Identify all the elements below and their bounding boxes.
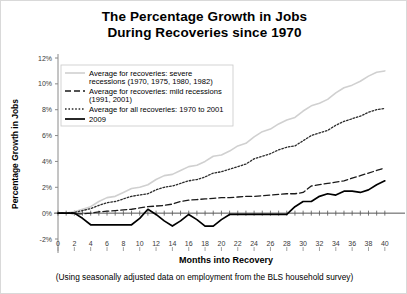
y-axis-tick-label: 12% bbox=[38, 55, 52, 62]
x-axis-tick-label: 10 bbox=[136, 240, 144, 247]
legend-label-1: (1991, 2001) bbox=[89, 95, 133, 104]
y-axis-tick-label: 8% bbox=[42, 106, 52, 113]
x-axis-tick-label: 22 bbox=[234, 240, 242, 247]
x-axis-tick-label: 32 bbox=[316, 240, 324, 247]
x-axis-tick-label: 4 bbox=[89, 240, 93, 247]
x-axis-label: Months into Recovery bbox=[61, 255, 391, 265]
x-axis-tick-label: 24 bbox=[250, 240, 258, 247]
chart-footnote: (Using seasonally adjusted data on emplo… bbox=[11, 272, 398, 282]
y-axis-tick-label: 4% bbox=[42, 158, 52, 165]
x-axis-tick-label: 12 bbox=[152, 240, 160, 247]
y-axis-tick-label: 6% bbox=[42, 132, 52, 139]
x-axis-tick-label: 26 bbox=[267, 240, 275, 247]
x-axis-tick-label: 16 bbox=[185, 240, 193, 247]
y-axis-tick-label: 10% bbox=[38, 80, 52, 87]
x-axis-tick-label: 14 bbox=[168, 240, 176, 247]
legend-label-2: Average for all recoveries: 1970 to 2001 bbox=[89, 105, 224, 114]
legend-label-3: 2009 bbox=[89, 115, 106, 124]
series-line-3 bbox=[58, 181, 385, 226]
x-axis-tick-label: 20 bbox=[218, 240, 226, 247]
x-axis-tick-label: 36 bbox=[348, 240, 356, 247]
legend-label-0: recessions (1970, 1975, 1980, 1982) bbox=[89, 77, 213, 86]
chart-plot-area: -2%0%2%4%6%8%10%12%024681012141618202224… bbox=[1, 1, 407, 294]
x-axis-tick-label: 28 bbox=[283, 240, 291, 247]
x-axis-tick-label: 30 bbox=[299, 240, 307, 247]
y-axis-tick-label: 2% bbox=[42, 184, 52, 191]
y-axis-tick-label: -2% bbox=[40, 236, 52, 243]
series-line-1 bbox=[58, 168, 385, 214]
x-axis-tick-label: 8 bbox=[121, 240, 125, 247]
x-axis-tick-label: 0 bbox=[56, 240, 60, 247]
x-axis-tick-label: 34 bbox=[332, 240, 340, 247]
x-axis-tick-label: 38 bbox=[365, 240, 373, 247]
y-axis-tick-label: 0% bbox=[42, 210, 52, 217]
x-axis-tick-label: 2 bbox=[72, 240, 76, 247]
chart-figure: The Percentage Growth in Jobs During Rec… bbox=[0, 0, 407, 294]
x-axis-tick-label: 6 bbox=[105, 240, 109, 247]
x-axis-tick-label: 18 bbox=[201, 240, 209, 247]
x-axis-tick-label: 40 bbox=[381, 240, 389, 247]
